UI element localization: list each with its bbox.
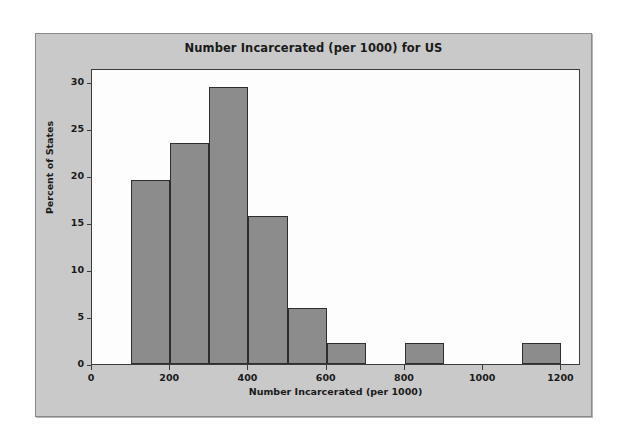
x-axis-tick-mark — [91, 365, 92, 370]
x-axis-tick-mark — [404, 365, 405, 370]
y-axis-tick: 20 — [36, 177, 91, 178]
x-axis-tick-label: 800 — [379, 372, 429, 383]
y-axis-tick: 5 — [36, 318, 91, 319]
histogram-bar — [131, 180, 170, 364]
y-axis-tick: 25 — [36, 130, 91, 131]
chart-title: Number Incarcerated (per 1000) for US — [36, 41, 591, 55]
y-axis-tick-label: 0 — [77, 358, 84, 369]
y-axis-tick: 10 — [36, 271, 91, 272]
x-axis-tick-label: 400 — [222, 372, 272, 383]
x-axis-tick-mark — [482, 365, 483, 370]
y-axis-tick-label: 10 — [71, 264, 84, 275]
chart-figure-panel: Number Incarcerated (per 1000) for US Pe… — [35, 33, 592, 417]
y-axis-tick-label: 25 — [71, 123, 84, 134]
y-axis-tick-label: 20 — [71, 170, 84, 181]
x-axis-tick-mark — [169, 365, 170, 370]
histogram-bars — [92, 70, 579, 364]
histogram-bar — [209, 87, 248, 364]
x-axis-tick-label: 200 — [144, 372, 194, 383]
y-axis-tick-label: 30 — [71, 76, 84, 87]
x-axis-tick-label: 1200 — [535, 372, 585, 383]
x-axis-tick-mark — [247, 365, 248, 370]
x-axis-tick-label: 600 — [301, 372, 351, 383]
histogram-bar — [288, 308, 327, 364]
histogram-bar — [327, 343, 366, 364]
x-axis-tick-mark — [560, 365, 561, 370]
histogram-bar — [405, 343, 444, 364]
x-axis-label: Number Incarcerated (per 1000) — [91, 386, 580, 397]
plot-area — [91, 69, 580, 365]
y-axis-label: Percent of States — [44, 98, 55, 238]
x-axis-tick-label: 1000 — [457, 372, 507, 383]
y-axis-tick: 30 — [36, 83, 91, 84]
y-axis-tick-label: 5 — [77, 311, 84, 322]
x-axis-tick-mark — [326, 365, 327, 370]
y-axis-tick: 15 — [36, 224, 91, 225]
y-axis-tick: 0 — [36, 365, 91, 366]
histogram-bar — [248, 216, 287, 364]
histogram-bar — [522, 343, 561, 364]
y-axis-tick-label: 15 — [71, 217, 84, 228]
histogram-bar — [170, 143, 209, 364]
x-axis-tick-label: 0 — [66, 372, 116, 383]
